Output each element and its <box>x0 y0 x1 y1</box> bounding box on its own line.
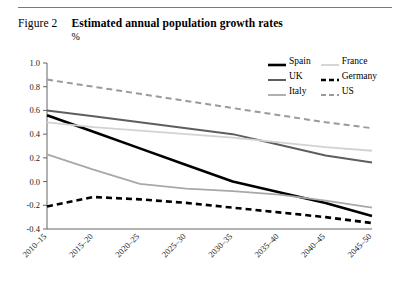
y-tick-label: 1.0 <box>29 58 40 68</box>
x-tick-label: 2020–25 <box>113 231 141 259</box>
series-line-italy <box>47 154 372 207</box>
figure-label: Figure 2 <box>18 17 71 29</box>
x-tick-label: 2035–40 <box>252 231 280 259</box>
y-tick-label: 0.8 <box>29 82 40 92</box>
figure-title-block: Estimated annual population growth rates… <box>71 17 282 42</box>
x-tick-label: 2040–45 <box>299 231 327 259</box>
x-tick-label: 2045–50 <box>345 231 373 259</box>
x-tick-label: 2010–15 <box>20 231 48 259</box>
y-tick-label: 0.6 <box>29 105 40 115</box>
line-chart: 1.00.80.60.40.20.0-0.2-0.42010–152015–20… <box>0 48 409 282</box>
header-rule <box>18 7 392 8</box>
x-tick-label: 2030–35 <box>206 231 234 259</box>
y-tick-label: -0.4 <box>27 224 41 234</box>
series-line-france <box>47 122 372 150</box>
y-tick-label: 0.0 <box>29 177 40 187</box>
y-tick-label: 0.2 <box>29 153 40 163</box>
y-tick-label: 0.4 <box>29 129 40 139</box>
figure-header: Figure 2 Estimated annual population gro… <box>18 17 394 42</box>
axis-unit-label: % <box>71 31 282 42</box>
x-tick-label: 2025–30 <box>160 231 188 259</box>
page-title: Estimated annual population growth rates <box>71 17 282 29</box>
series-line-us <box>47 80 372 129</box>
y-tick-label: -0.2 <box>27 200 40 210</box>
x-tick-label: 2015–20 <box>67 231 95 259</box>
